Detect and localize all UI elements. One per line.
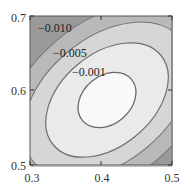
x-tick-0.5: 0.5 [165, 171, 180, 185]
x-tick-0.3: 0.3 [25, 171, 40, 185]
x-tick-0.4: 0.4 [95, 171, 110, 185]
y-tick-0.7: 0.7 [11, 11, 26, 25]
contour-label-010: −0.010 [38, 21, 72, 35]
y-tick-0.6: 0.6 [11, 84, 26, 98]
contour-chart: −0.010 −0.005 −0.001 0.5 0.6 0.7 0.3 0.4… [0, 0, 186, 191]
contour-label-001: −0.001 [72, 65, 106, 79]
contour-label-005: −0.005 [53, 46, 87, 60]
contour-fills [0, 0, 186, 191]
